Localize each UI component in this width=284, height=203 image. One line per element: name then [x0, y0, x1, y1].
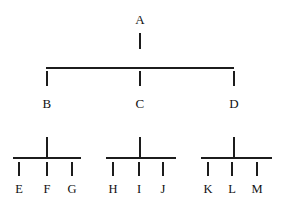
- leaf-label-f: F: [44, 183, 51, 196]
- leaf-label-h: H: [108, 183, 117, 196]
- leaf-label-j: J: [161, 183, 166, 196]
- group-c-horizontal-bar: [106, 157, 176, 159]
- group-c-tick-j: [162, 162, 164, 176]
- level1-tick-d: [233, 71, 235, 86]
- root-stem: [139, 33, 141, 49]
- node-label-d: D: [229, 97, 239, 110]
- level1-horizontal-bar: [46, 67, 234, 69]
- group-c-stem: [139, 137, 141, 158]
- leaf-label-m: M: [251, 183, 262, 196]
- group-d-tick-l: [231, 162, 233, 176]
- group-b-horizontal-bar: [13, 157, 81, 159]
- group-d-stem: [233, 137, 235, 158]
- group-d-horizontal-bar: [201, 157, 272, 159]
- group-b-tick-f: [46, 162, 48, 176]
- group-b-tick-g: [71, 162, 73, 176]
- leaf-label-l: L: [228, 183, 236, 196]
- node-label-c: C: [136, 97, 145, 110]
- leaf-label-e: E: [15, 183, 23, 196]
- group-c-tick-h: [112, 162, 114, 176]
- level1-tick-b: [46, 71, 48, 86]
- leaf-label-i: I: [137, 183, 141, 196]
- leaf-label-g: G: [67, 183, 76, 196]
- group-b-tick-e: [18, 162, 20, 176]
- group-b-stem: [46, 137, 48, 158]
- node-label-b: B: [43, 97, 52, 110]
- group-c-tick-i: [138, 162, 140, 176]
- group-d-tick-m: [256, 162, 258, 176]
- group-d-tick-k: [207, 162, 209, 176]
- node-label-root: A: [135, 13, 145, 26]
- hierarchy-tree-diagram: A B C D E F G H I J K L M: [0, 0, 284, 203]
- leaf-label-k: K: [203, 183, 212, 196]
- level1-tick-c: [139, 71, 141, 86]
